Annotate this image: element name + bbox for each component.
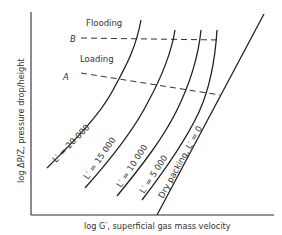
- line-b-label: B: [70, 34, 76, 44]
- curve-l-15000-label: L′ = 15 000: [81, 135, 117, 181]
- x-axis-title: log G′, superficial gas mass velocity: [84, 221, 231, 231]
- curve-l-20000-label: L′ = 20 000: [50, 122, 91, 164]
- loading-line-a: [81, 73, 220, 95]
- line-a-label: A: [62, 72, 69, 82]
- flooding-label: Flooding: [86, 18, 122, 28]
- pressure-drop-chart: Flooding Loading B A L′ = 20 000 L′ = 15…: [0, 0, 282, 235]
- y-axis-title: log ΔP/Z, pressure drop/height: [16, 58, 26, 183]
- loading-label: Loading: [80, 54, 114, 64]
